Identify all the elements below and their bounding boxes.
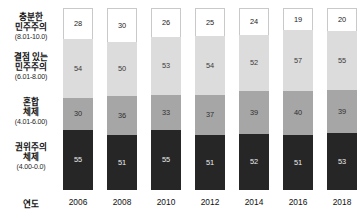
segment-value-label: 53 <box>338 158 346 165</box>
legend-label-line1: 결점 있는 <box>0 52 62 62</box>
segment-value-label: 54 <box>74 65 82 72</box>
legend-label-line2: 민주주의 <box>0 22 62 32</box>
legend-label-line2: 체제 <box>0 107 62 117</box>
legend-item-hybrid-regime: 혼합 체제 (4.01-6.00) <box>0 97 62 127</box>
segment-value-label: 55 <box>162 156 170 163</box>
legend-score-range: (4.00-0.0) <box>0 163 62 171</box>
segment-value-label: 55 <box>74 156 82 163</box>
legend-score-range: (4.01-6.00) <box>0 118 62 126</box>
legend-label-line2: 체제 <box>0 152 62 162</box>
segment-full-democracy: 30 <box>107 8 137 42</box>
segment-value-label: 36 <box>118 112 126 119</box>
segment-value-label: 25 <box>206 19 214 26</box>
segment-full-democracy: 19 <box>283 8 313 30</box>
x-axis-title: 연도 <box>0 197 62 209</box>
x-tick-label: 2006 <box>63 197 93 207</box>
segment-value-label: 37 <box>206 111 214 118</box>
legend-item-authoritarian-regime: 권위주의 체제 (4.00-0.0) <box>0 142 62 172</box>
x-tick-label: 2012 <box>195 197 225 207</box>
segment-flawed-democracy: 53 <box>151 37 181 94</box>
segment-value-label: 39 <box>338 108 346 115</box>
stacked-bar: 25543751 <box>195 8 225 190</box>
x-axis: 연도 2006200820102012201420162018 <box>0 192 351 218</box>
segment-flawed-democracy: 57 <box>283 30 313 92</box>
legend-item-full-democracy: 충분한 민주주의 (8.01-10.0) <box>0 12 62 42</box>
segment-value-label: 53 <box>162 62 170 69</box>
segment-value-label: 52 <box>250 158 258 165</box>
segment-value-label: 54 <box>206 62 214 69</box>
segment-value-label: 20 <box>338 16 346 23</box>
legend-item-flawed-democracy: 결점 있는 민주주의 (6.01-8.00) <box>0 52 62 82</box>
segment-value-label: 40 <box>294 109 302 116</box>
bar-column: 19574051 <box>283 8 313 190</box>
legend-score-range: (6.01-8.00) <box>0 73 62 81</box>
stacked-bar: 26533355 <box>151 8 181 190</box>
segment-flawed-democracy: 54 <box>63 39 93 98</box>
segment-value-label: 28 <box>74 20 82 27</box>
segment-hybrid-regime: 33 <box>151 95 181 131</box>
legend-label-line1: 혼합 <box>0 97 62 107</box>
segment-value-label: 57 <box>294 57 302 64</box>
segment-value-label: 30 <box>74 110 82 117</box>
segment-value-label: 52 <box>250 59 258 66</box>
segment-flawed-democracy: 50 <box>107 42 137 96</box>
legend-label-line2: 민주주의 <box>0 62 62 72</box>
legend-label-line1: 권위주의 <box>0 142 62 152</box>
segment-full-democracy: 26 <box>151 8 181 37</box>
segment-value-label: 30 <box>118 22 126 29</box>
segment-value-label: 24 <box>250 18 258 25</box>
bar-column: 20553953 <box>327 8 357 190</box>
segment-hybrid-regime: 30 <box>63 98 93 131</box>
segment-authoritarian-regime: 51 <box>195 135 225 190</box>
segment-value-label: 51 <box>206 159 214 166</box>
segment-authoritarian-regime: 53 <box>327 133 357 190</box>
segment-hybrid-regime: 40 <box>283 91 313 134</box>
segment-value-label: 33 <box>162 109 170 116</box>
bar-column: 24523952 <box>239 8 269 190</box>
segment-hybrid-regime: 39 <box>239 91 269 133</box>
x-tick-label: 2010 <box>151 197 181 207</box>
x-tick-label: 2014 <box>239 197 269 207</box>
segment-authoritarian-regime: 52 <box>239 134 269 190</box>
segment-full-democracy: 28 <box>63 8 93 39</box>
segment-value-label: 51 <box>118 159 126 166</box>
legend-score-range: (8.01-10.0) <box>0 33 62 41</box>
segment-flawed-democracy: 54 <box>195 36 225 95</box>
segment-flawed-democracy: 52 <box>239 35 269 91</box>
segment-value-label: 55 <box>338 57 346 64</box>
stacked-bar: 24523952 <box>239 8 269 190</box>
segment-value-label: 39 <box>250 109 258 116</box>
stacked-bar: 19574051 <box>283 8 313 190</box>
segment-value-label: 50 <box>118 65 126 72</box>
segment-hybrid-regime: 39 <box>327 90 357 132</box>
segment-full-democracy: 25 <box>195 8 225 36</box>
stacked-bar: 28543055 <box>63 8 93 190</box>
bar-column: 26533355 <box>151 8 181 190</box>
segment-value-label: 26 <box>162 19 170 26</box>
bar-column: 28543055 <box>63 8 93 190</box>
segment-full-democracy: 24 <box>239 8 269 35</box>
stacked-bar: 30503651 <box>107 8 137 190</box>
segment-authoritarian-regime: 55 <box>151 130 181 190</box>
segment-value-label: 19 <box>294 16 302 23</box>
x-tick-label: 2016 <box>283 197 313 207</box>
plot-area: 2854305530503651265333552554375124523952… <box>62 8 351 190</box>
segment-value-label: 51 <box>294 159 302 166</box>
bar-column: 25543751 <box>195 8 225 190</box>
segment-authoritarian-regime: 51 <box>107 135 137 190</box>
bar-column: 30503651 <box>107 8 137 190</box>
segment-hybrid-regime: 37 <box>195 95 225 135</box>
segment-authoritarian-regime: 55 <box>63 130 93 190</box>
x-tick-label: 2008 <box>107 197 137 207</box>
segment-hybrid-regime: 36 <box>107 96 137 135</box>
category-legend: 충분한 민주주의 (8.01-10.0) 결점 있는 민주주의 (6.01-8.… <box>0 0 62 190</box>
segment-full-democracy: 20 <box>327 8 357 31</box>
legend-label-line1: 충분한 <box>0 12 62 22</box>
stacked-bar: 20553953 <box>327 8 357 190</box>
segment-authoritarian-regime: 51 <box>283 135 313 190</box>
x-tick-label: 2018 <box>327 197 357 207</box>
segment-flawed-democracy: 55 <box>327 31 357 91</box>
